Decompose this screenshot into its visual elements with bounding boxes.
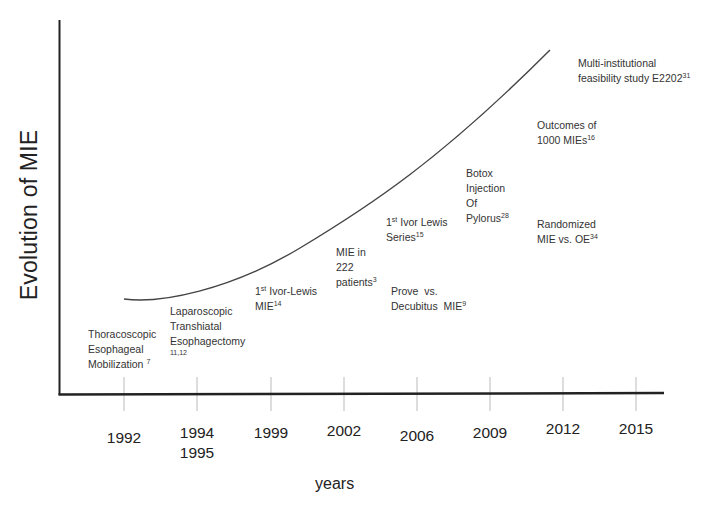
event-ivor-lewis-series: 1st Ivor Lewis Series15 bbox=[386, 215, 447, 245]
event-botox-injection: Botox Injection Of Pylorus28 bbox=[466, 166, 509, 226]
x-axis bbox=[59, 393, 665, 395]
event-randomized-mie-vs-oe: Randomized MIE vs. OE34 bbox=[537, 217, 598, 247]
tick-label-2009: 2009 bbox=[473, 423, 507, 443]
tick-label-2002: 2002 bbox=[327, 421, 361, 441]
event-mie-222-patients: MIE in 222 patients3 bbox=[336, 245, 377, 290]
event-first-ivor-lewis-mie: 1st Ivor-Lewis MIE14 bbox=[255, 284, 317, 314]
event-outcomes-1000-mies: Outcomes of 1000 MIEs16 bbox=[537, 118, 597, 148]
event-multi-institutional-e2202: Multi-institutional feasibility study E2… bbox=[578, 56, 690, 86]
tick-label-2006: 2006 bbox=[400, 426, 434, 446]
tick-label-2012: 2012 bbox=[546, 419, 580, 439]
tick-label-1999: 1999 bbox=[254, 423, 288, 443]
tick-label-1992: 1992 bbox=[107, 428, 141, 448]
timeline-diagram: Evolution of MIE 1992 1994 1995 1999 200… bbox=[0, 0, 720, 509]
x-axis-label: years bbox=[315, 475, 354, 493]
y-axis-label: Evolution of MIE bbox=[16, 130, 43, 301]
tick-label-1994-line1: 1994 bbox=[180, 424, 214, 441]
event-laparoscopic-transhiatal: Laparoscopic Transhiatal Esophagectomy11… bbox=[170, 304, 245, 357]
tick-label-2015: 2015 bbox=[619, 419, 653, 439]
event-prone-vs-decubitus: Prove vs. Decubitus MIE9 bbox=[391, 284, 466, 314]
tick-label-1994: 1994 1995 bbox=[180, 423, 214, 463]
event-thoracoscopic-mobilization: Thoracoscopic Esophageal Mobilization 7 bbox=[88, 327, 156, 372]
tick-label-1995-line2: 1995 bbox=[180, 444, 214, 461]
